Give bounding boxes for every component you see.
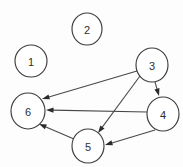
edge-line	[102, 76, 140, 128]
arrowhead-icon	[98, 125, 105, 133]
edge-4-to-5	[105, 130, 155, 145]
graph-node-3[interactable]: 3	[136, 48, 168, 82]
edge-line	[155, 82, 157, 90]
arrowhead-icon	[154, 88, 159, 96]
graph-diagram: 123456	[0, 0, 183, 167]
arrowhead-icon	[39, 124, 47, 129]
node-label: 6	[25, 106, 31, 118]
node-label: 1	[28, 56, 34, 68]
arrowhead-icon	[105, 140, 113, 145]
edge-line	[45, 126, 74, 139]
graph-node-6[interactable]: 6	[11, 93, 45, 129]
edge-5-to-6	[39, 124, 74, 139]
edge-3-to-6	[42, 71, 137, 99]
arrowhead-icon	[46, 108, 54, 113]
arrowhead-icon	[42, 94, 50, 99]
edge-line	[48, 71, 137, 97]
graph-node-5[interactable]: 5	[72, 129, 104, 163]
graph-canvas-svg: 123456	[0, 0, 183, 167]
edge-line	[52, 110, 147, 112]
node-label: 4	[160, 109, 166, 121]
node-label: 5	[85, 141, 91, 153]
graph-node-4[interactable]: 4	[147, 97, 179, 131]
graph-node-2[interactable]: 2	[72, 13, 102, 45]
edge-line	[111, 130, 155, 143]
node-label: 2	[84, 24, 90, 36]
edge-3-to-4	[154, 82, 159, 96]
edge-3-to-5	[98, 76, 140, 133]
node-label: 3	[149, 60, 155, 72]
graph-node-1[interactable]: 1	[15, 45, 47, 77]
nodes-layer: 123456	[11, 13, 179, 163]
edge-4-to-6	[46, 108, 147, 113]
